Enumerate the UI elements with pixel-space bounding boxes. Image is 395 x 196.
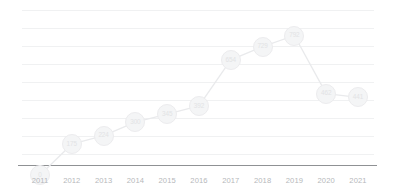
x-axis-tick-label: 2013 <box>95 176 112 185</box>
data-point-value-label: 792 <box>289 32 299 38</box>
x-axis-tick-label: 2011 <box>32 176 49 185</box>
x-axis-labels: 2011201220132014201520162017201820192020… <box>0 176 395 192</box>
data-point-marker[interactable]: 392 <box>189 96 209 116</box>
x-axis-tick-label: 2018 <box>254 176 271 185</box>
x-axis-tick-label: 2020 <box>318 176 335 185</box>
x-axis-tick-label: 2014 <box>127 176 144 185</box>
x-axis-tick-label: 2012 <box>63 176 80 185</box>
data-point-marker[interactable]: 345 <box>157 104 177 124</box>
data-point-value-label: 462 <box>321 90 331 96</box>
data-point-marker[interactable]: 224 <box>94 126 114 146</box>
data-point-marker[interactable]: 792 <box>284 26 304 46</box>
data-point-value-label: 224 <box>98 132 108 138</box>
data-point-value-label: 175 <box>67 141 77 147</box>
x-axis-tick-label: 2019 <box>286 176 303 185</box>
data-point-value-label: 300 <box>130 119 140 125</box>
x-axis-tick-label: 2021 <box>349 176 366 185</box>
data-point-marker[interactable]: 300 <box>125 112 145 132</box>
data-point-marker[interactable]: 729 <box>253 37 273 57</box>
data-point-markers: 0175224300345392654729792462441 <box>0 0 395 196</box>
x-axis-tick-label: 2016 <box>190 176 207 185</box>
data-point-value-label: 345 <box>162 111 172 117</box>
x-axis-tick-label: 2015 <box>159 176 176 185</box>
data-point-value-label: 654 <box>226 57 236 63</box>
data-point-value-label: 441 <box>353 94 363 100</box>
data-point-marker[interactable]: 175 <box>62 134 82 154</box>
data-point-marker[interactable]: 462 <box>316 84 336 104</box>
data-point-value-label: 392 <box>194 103 204 109</box>
data-point-marker[interactable]: 441 <box>348 87 368 107</box>
data-point-marker[interactable]: 654 <box>221 50 241 70</box>
data-point-value-label: 729 <box>257 43 267 49</box>
x-axis-tick-label: 2017 <box>222 176 239 185</box>
line-chart: 0175224300345392654729792462441 20112012… <box>0 0 395 196</box>
